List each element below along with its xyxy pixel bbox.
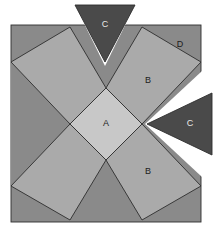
label-b-upper: B: [145, 75, 151, 85]
dissection-diagram: A B B C C D: [0, 0, 220, 232]
label-c-right: C: [187, 118, 194, 128]
label-a: A: [103, 118, 109, 128]
label-b-lower: B: [145, 166, 151, 176]
label-c-top: C: [102, 19, 109, 29]
label-d: D: [177, 39, 184, 49]
figure-root: A B B C C D: [0, 0, 220, 232]
